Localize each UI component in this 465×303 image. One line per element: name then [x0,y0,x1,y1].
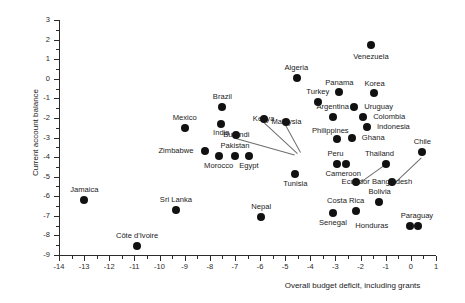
data-point [359,113,367,121]
data-point-label: Indonesia [377,123,410,131]
data-point-label: Côte d'Ivoire [116,232,158,240]
data-point [375,198,383,206]
y-tick-minor [56,167,59,168]
data-point-label: Algeria [285,64,309,72]
x-tick-minor [298,256,299,259]
x-tick-minor [197,256,198,259]
data-point [363,123,371,131]
x-tick-label: -11 [120,263,148,271]
x-tick-label: -9 [171,263,199,271]
x-tick-label: -13 [70,263,98,271]
data-point [414,222,422,230]
x-tick-label: -1 [372,263,400,271]
y-tick-minor [56,89,59,90]
y-tick-minor [56,186,59,187]
x-tick [335,256,336,261]
x-tick [411,256,412,261]
x-tick-minor [122,256,123,259]
data-point-label: Costa Rica [327,197,364,205]
data-point-label: Mexico [173,114,197,122]
data-point-label: Honduras [355,222,388,230]
data-point-label: Colombia [373,113,405,121]
data-point-label: Paraguay [401,212,434,220]
data-point-label: Zimbabwe [158,147,193,155]
x-tick-minor [97,256,98,259]
y-tick-label: -8 [24,231,50,239]
data-point [217,120,225,128]
y-tick-minor [56,49,59,50]
x-tick [285,256,286,261]
data-point [181,124,189,132]
data-point-label: Pakistan [220,142,249,150]
data-point [350,103,358,111]
y-tick-label: -9 [24,251,50,259]
data-point [201,147,209,155]
y-tick [54,59,59,60]
data-point-label: Philippines [312,127,349,135]
y-tick-minor [56,108,59,109]
x-tick-label: 0 [397,263,425,271]
data-point-label: Jamaica [70,186,98,194]
x-tick [436,256,437,261]
x-tick-minor [248,256,249,259]
x-tick [310,256,311,261]
y-tick-minor [56,226,59,227]
x-tick-label: -4 [296,263,324,271]
data-point [333,160,341,168]
data-point [333,135,341,143]
data-point-label: Argentina [316,103,349,111]
y-tick [54,216,59,217]
data-point [352,207,360,215]
x-tick-label: -8 [196,263,224,271]
data-point-label: Tunisia [283,180,307,188]
x-tick [109,256,110,261]
data-point [342,160,350,168]
data-point-label: Ghana [362,134,385,142]
x-tick-label: -14 [45,263,73,271]
x-tick-minor [348,256,349,259]
data-point-label: Uruguay [364,103,393,111]
data-point [348,134,356,142]
data-point-label: Morocco [204,162,233,170]
x-tick-label: -2 [347,263,375,271]
data-point-label: Malaysia [271,118,301,126]
scatter-chart: 3210-1-2-3-4-5-6-7-8-9-14-13-12-11-10-9-… [0,0,465,303]
y-tick-minor [56,69,59,70]
x-tick-label: -6 [246,263,274,271]
plot-area: 3210-1-2-3-4-5-6-7-8-9-14-13-12-11-10-9-… [0,0,465,303]
x-tick-minor [373,256,374,259]
x-tick-minor [398,256,399,259]
data-point [257,213,265,221]
data-point-label: Venezuela [353,53,388,61]
y-tick [54,79,59,80]
x-tick [84,256,85,261]
data-point [245,152,253,160]
y-axis-line [59,20,60,256]
x-tick-label: -3 [321,263,349,271]
x-tick [260,256,261,261]
data-point [80,196,88,204]
x-tick-label: -5 [271,263,299,271]
y-tick-minor [56,128,59,129]
x-tick [361,256,362,261]
data-point-label: Thailand [365,150,394,158]
y-tick [54,177,59,178]
data-point [329,209,337,217]
x-tick [134,256,135,261]
x-tick-minor [273,256,274,259]
y-tick-minor [56,206,59,207]
y-tick [54,118,59,119]
data-point [406,222,414,230]
data-point [231,152,239,160]
data-point-label: Ecuador [342,178,370,186]
x-tick [160,256,161,261]
data-point-label: Burundi [223,131,249,139]
x-tick [235,256,236,261]
data-point-label: Sri Lanka [160,196,192,204]
data-point-label: Korea [364,80,384,88]
data-point-label: Panama [325,79,353,87]
x-tick-minor [147,256,148,259]
x-tick-minor [323,256,324,259]
y-tick [54,40,59,41]
data-point-label: Senegal [319,219,347,227]
